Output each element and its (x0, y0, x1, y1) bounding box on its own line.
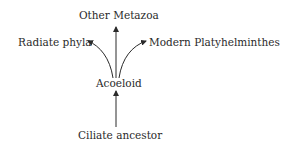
node-other-metazoa: Other Metazoa (79, 10, 159, 21)
arrow-acoeloid-to-radiate-phyla (88, 41, 113, 78)
node-modern-platyhelminthes: Modern Platyhelminthes (149, 37, 280, 48)
arrow-acoeloid-to-modern-platyhelminthes (119, 41, 146, 78)
arrows-layer (0, 0, 282, 148)
node-ciliate-ancestor: Ciliate ancestor (78, 130, 162, 141)
node-acoeloid: Acoeloid (96, 78, 142, 89)
node-radiate-phyla: Radiate phyla (18, 37, 92, 48)
